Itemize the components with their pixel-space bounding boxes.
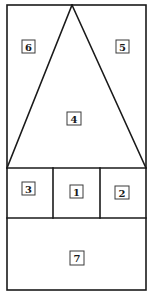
region-6-label: 6 [22, 40, 35, 53]
region-7-label: 7 [70, 251, 84, 265]
region-2-number: 2 [119, 188, 126, 199]
region-7-number: 7 [74, 253, 81, 264]
region-5-label: 5 [116, 40, 129, 53]
region-4-number: 4 [71, 114, 78, 125]
triangle-right-edge [72, 5, 146, 168]
region-6-number: 6 [25, 42, 32, 53]
region-1-label: 1 [70, 185, 83, 198]
region-5-number: 5 [119, 42, 126, 53]
region-4-label: 4 [67, 112, 81, 125]
region-1-number: 1 [73, 187, 80, 198]
region-2-label: 2 [115, 186, 129, 199]
region-diagram: 6 5 4 3 1 2 7 [0, 0, 160, 292]
region-3-label: 3 [22, 182, 35, 195]
triangle-left-edge [7, 5, 72, 168]
region-3-number: 3 [25, 184, 32, 195]
